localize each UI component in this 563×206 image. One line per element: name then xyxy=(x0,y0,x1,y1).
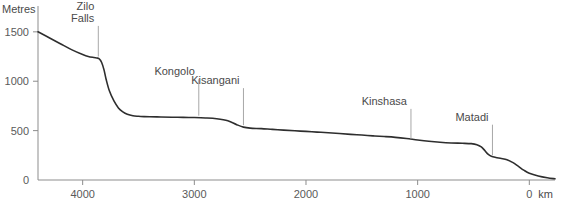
place-label: Kisangani xyxy=(191,74,239,86)
y-tick-label: 0 xyxy=(23,174,29,186)
place-label: Matadi xyxy=(455,111,488,123)
place-label: Kongolo xyxy=(154,65,194,77)
x-tick-label: 3000 xyxy=(182,188,206,200)
y-tick-label: 500 xyxy=(11,125,29,137)
y-axis-title: Metres xyxy=(2,3,36,15)
place-label: Zilo xyxy=(77,0,95,12)
chart-canvas: 05001000150040003000200010000MetreskmZil… xyxy=(0,0,563,206)
x-tick-label: 1000 xyxy=(405,188,429,200)
y-tick-label: 1500 xyxy=(5,26,29,38)
x-tick-label: 2000 xyxy=(294,188,318,200)
place-label: Falls xyxy=(71,12,95,24)
y-tick-label: 1000 xyxy=(5,75,29,87)
x-tick-label: 0 xyxy=(526,188,532,200)
elevation-profile-chart: 05001000150040003000200010000MetreskmZil… xyxy=(0,0,563,206)
x-axis-title: km xyxy=(538,188,553,200)
x-tick-label: 4000 xyxy=(70,188,94,200)
river-profile-line xyxy=(38,32,555,179)
place-label: Kinshasa xyxy=(362,95,408,107)
